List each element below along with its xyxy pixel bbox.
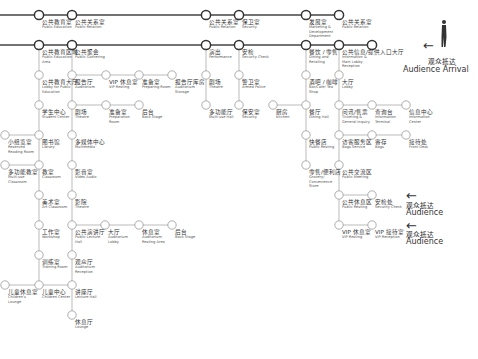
node-label: 大厅Lobby (342, 79, 372, 90)
node (402, 131, 410, 139)
label-en: Marketing & Development Department (309, 25, 339, 37)
node-label: 厨房Kitchen (276, 109, 306, 120)
legend-en: Audience (406, 237, 443, 246)
legend-en: Audience (406, 208, 443, 217)
label-en: Armed Police (242, 85, 272, 89)
label-en: Public Relation (75, 25, 105, 29)
legend-en: Audience Arrival (403, 65, 469, 74)
node-label: 训练室Training Room (42, 259, 72, 270)
label-en: Multi-use Hall (209, 115, 239, 119)
label-en: Auditorium Lobby (108, 235, 138, 243)
node-label: 公共信息/提供入口大厅Information & Main Lobby Rece… (342, 49, 404, 68)
node-label: 查询台Information Terminal (375, 109, 405, 124)
node-label: 餐厅Dining Hall (309, 109, 339, 120)
label-en: Workshop (42, 235, 72, 239)
node-label: 警卫室Armed Police (242, 79, 272, 90)
node (35, 221, 43, 229)
label-en: VIP Resting (342, 235, 372, 239)
node (68, 71, 76, 79)
label-en: Public Gathering (75, 55, 105, 59)
label-en: Security (242, 25, 272, 29)
node (168, 221, 176, 229)
node (302, 161, 310, 169)
node-label: 公共交流区Public Meeting (342, 169, 372, 180)
node (102, 71, 110, 79)
label-en: Bags (375, 145, 405, 149)
label-en: Preparation Room (109, 115, 139, 123)
node-label: 公共教育区域Public Education Area (42, 49, 78, 64)
arrow-left-icon: ← (423, 38, 434, 53)
node-label: 安检处Security Check (375, 199, 405, 210)
node (68, 281, 76, 289)
node-label: 公共关系室Public Relation (342, 19, 372, 30)
label-en: Lounge (75, 325, 105, 329)
node (168, 71, 176, 79)
node (202, 71, 210, 79)
label-en: Lecture Hall (75, 295, 105, 299)
node-label: 多功能教室Multi-use Classroom (8, 169, 38, 184)
node (35, 131, 43, 139)
node-label: 报告厅Auditorium (75, 79, 105, 90)
node-label: 接待处Front Desk (409, 139, 439, 150)
node (302, 101, 310, 109)
label-en: Lobby (342, 85, 372, 89)
label-en: Public Resting (309, 145, 339, 149)
label-en: Multi-use Classroom (8, 175, 38, 183)
node-label: 寄存Bags (375, 139, 405, 150)
node-label: 儿童休息室Children's Lounge (8, 289, 38, 304)
node (68, 251, 76, 259)
node-label: 休息厅Lounge (75, 319, 105, 330)
node-label: 工作室Workshop (42, 229, 72, 240)
label-en: Security Check (242, 55, 272, 59)
label-en: Grocery/ Convenience Store (309, 175, 339, 187)
node-label: 多功能厅Multi-use Hall (209, 109, 239, 120)
node-label: 发展室Marketing & Development Department (309, 19, 339, 38)
node (68, 101, 76, 109)
label-en: Public Education (42, 25, 72, 29)
node-label: 公共教育大厅Lobby for Public Education (42, 79, 78, 94)
label-en: Public Relation (342, 25, 372, 29)
node (335, 71, 343, 79)
node (68, 191, 76, 199)
label-en: Public Resting (342, 205, 372, 209)
label-en: Dining and Retailing (309, 55, 339, 63)
node-label: 公共聚会Public Gathering (75, 49, 105, 60)
label-en: Theatre (75, 115, 105, 119)
label-en: Auditorium Resting Area (142, 235, 172, 243)
label-en: Public Relation (209, 25, 239, 29)
label-en: Multimedia (75, 145, 105, 149)
node (135, 101, 143, 109)
node (368, 221, 376, 229)
label-en: Bar/Cafe/ Tea Shop (309, 85, 339, 93)
label-en: Back Stage (175, 235, 205, 239)
label-en: Preparing Room (142, 85, 172, 89)
node-label: 美术室Art Classroom (42, 199, 72, 210)
node (335, 221, 343, 229)
label-en: Lobby for Public Education (42, 85, 72, 93)
label-en: Auditorium (75, 85, 105, 89)
node (135, 71, 143, 79)
node-label: 公共关系室Public Relation (209, 19, 239, 30)
label-en: Performance (209, 55, 239, 59)
label-en: Auditorium Storage (175, 85, 205, 93)
node-label: 大厅Auditorium Lobby (108, 229, 138, 244)
node-label: 保安室Security (242, 109, 272, 120)
node-label: 公共演讲厅Public Lecture Hall (75, 229, 105, 244)
node-label: 学生中心Student Center (42, 109, 72, 120)
node-label: 信息中心Information Center (409, 109, 439, 124)
label-en: VIP Resting (109, 85, 139, 89)
node-label: 后台Back Stage (142, 109, 172, 120)
node (335, 161, 343, 169)
node (35, 191, 43, 199)
label-en: Kitchen (276, 115, 306, 119)
node-label: 安检Security Check (242, 49, 272, 60)
node-label: 后台Back Stage (175, 229, 205, 240)
node-label: 访客服务区Bags Service (342, 139, 372, 150)
label-en: Security Check (375, 205, 405, 209)
node (302, 71, 310, 79)
node-label: 影音室Video Audio (75, 169, 105, 180)
node (35, 251, 43, 259)
node (235, 101, 243, 109)
node-label: 快餐店Public Resting (309, 139, 339, 150)
node-label: 多媒体中心Multimedia (75, 139, 105, 150)
